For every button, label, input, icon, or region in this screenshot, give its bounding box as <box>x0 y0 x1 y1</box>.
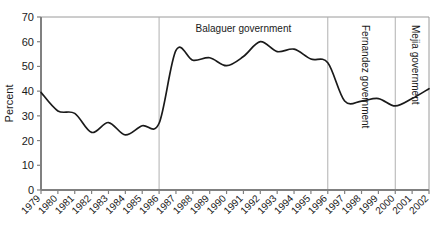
y-tick-label: 60 <box>22 36 34 48</box>
y-tick-label: 20 <box>22 135 34 147</box>
y-axis-title: Percent <box>3 85 15 123</box>
y-tick-label: 70 <box>22 11 34 23</box>
y-tick-label: 30 <box>22 110 34 122</box>
y-tick-label: 40 <box>22 85 34 97</box>
y-tick-label: 10 <box>22 159 34 171</box>
annotation-label-1: Fernandez government <box>360 25 371 129</box>
x-tick-label: 2002 <box>407 192 431 216</box>
line-chart-plot: 0102030405060701979198019811982198319841… <box>0 0 437 241</box>
y-tick-label: 50 <box>22 60 34 72</box>
annotation-label-2: Mejia government <box>410 25 421 105</box>
annotation-label-0: Balaguer government <box>196 23 292 34</box>
chart-container: 0102030405060701979198019811982198319841… <box>0 0 437 241</box>
